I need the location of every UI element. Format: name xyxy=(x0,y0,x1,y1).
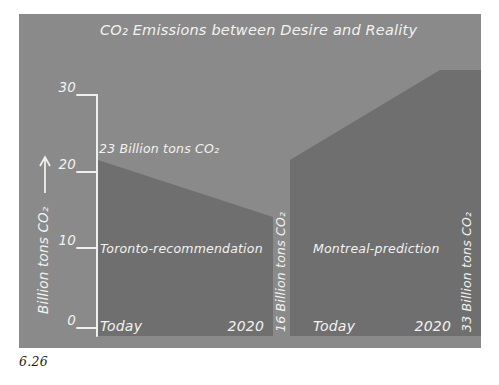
chart-svg: CO₂ Emissions between Desire and Reality… xyxy=(19,14,481,348)
y-tick-label-10: 10 xyxy=(58,232,76,248)
toronto-series-label: Toronto-recommendation xyxy=(100,241,263,256)
montreal-x-start-label: Today xyxy=(313,318,356,334)
y-axis-title: Billion tons CO₂ xyxy=(35,206,51,314)
toronto-x-start-label: Today xyxy=(100,318,143,334)
montreal-end-annotation: 33 Billion tons CO₂ xyxy=(459,212,474,332)
y-axis-arrow-icon xyxy=(40,157,50,193)
y-tick-label-0: 0 xyxy=(67,312,76,328)
montreal-area-shape xyxy=(290,70,481,336)
y-tick-label-20: 20 xyxy=(58,156,76,172)
montreal-series-label: Montreal-prediction xyxy=(313,241,440,256)
toronto-start-annotation: 23 Billion tons CO₂ xyxy=(99,141,219,156)
figure-caption: 6.26 xyxy=(19,354,48,369)
toronto-x-end-label: 2020 xyxy=(228,318,264,334)
y-tick-label-30: 30 xyxy=(58,79,76,95)
figure-panel: CO₂ Emissions between Desire and Reality… xyxy=(19,14,481,348)
toronto-end-annotation: 16 Billion tons CO₂ xyxy=(273,212,288,332)
montreal-x-end-label: 2020 xyxy=(415,318,451,334)
chart-title: CO₂ Emissions between Desire and Reality xyxy=(100,22,417,38)
